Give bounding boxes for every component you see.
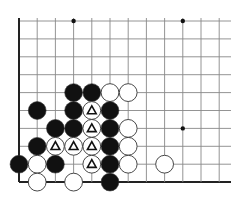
black-stone [65, 102, 83, 120]
star-point-icon [181, 19, 185, 23]
black-stone [65, 119, 83, 137]
black-stone [83, 84, 101, 102]
white-stone [156, 155, 174, 173]
black-stone [101, 137, 119, 155]
star-point-icon [181, 126, 185, 130]
black-stone [47, 155, 65, 173]
white-stone [119, 137, 137, 155]
white-stone [119, 84, 137, 102]
star-point-icon [71, 19, 75, 23]
black-stone [101, 155, 119, 173]
white-stone [119, 119, 137, 137]
black-stone [101, 102, 119, 120]
white-stone [101, 84, 119, 102]
white-stone [119, 155, 137, 173]
black-stone [28, 102, 46, 120]
go-board [0, 0, 249, 201]
black-stone [65, 84, 83, 102]
black-stone [10, 155, 28, 173]
white-stone [28, 173, 46, 191]
black-stone [28, 137, 46, 155]
black-stone [47, 119, 65, 137]
black-stone [101, 119, 119, 137]
white-stone [65, 173, 83, 191]
black-stone [101, 173, 119, 191]
white-stone [28, 155, 46, 173]
